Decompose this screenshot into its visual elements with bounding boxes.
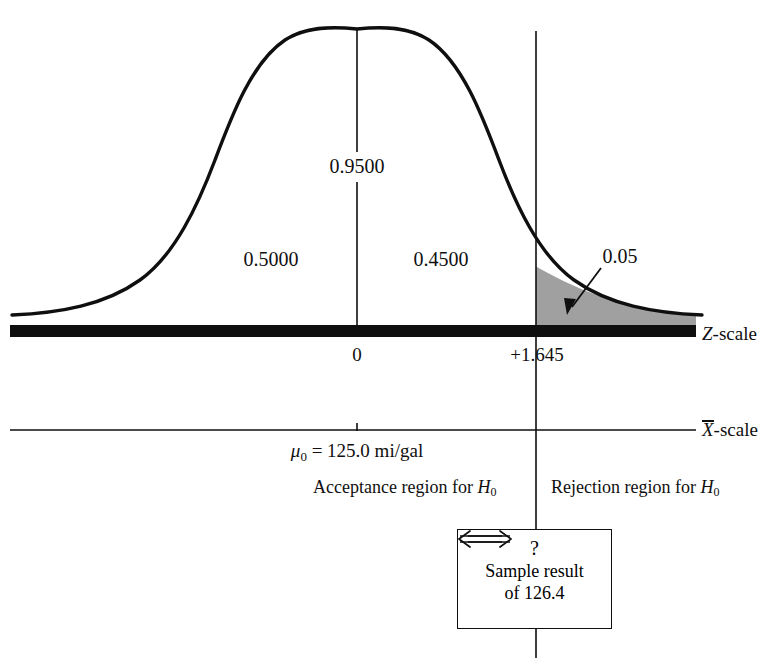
acceptance-region-label: Acceptance region for H0 xyxy=(313,478,496,498)
rejection-tail-shaded-area xyxy=(536,267,696,327)
sample-direction-arrows: ? xyxy=(458,536,611,560)
x-bar-scale-axis-label: X-scale xyxy=(702,419,758,439)
x-bar-symbol: X xyxy=(702,419,714,439)
x-bar-scale-suffix: -scale xyxy=(714,419,758,440)
acceptance-hypothesis-symbol: H xyxy=(477,477,490,497)
z-scale-axis-label: Z-scale xyxy=(702,324,757,343)
sample-result-line-1: Sample result xyxy=(485,561,583,582)
rejection-hypothesis-symbol: H xyxy=(700,477,713,497)
unknown-direction-question-mark: ? xyxy=(527,538,542,558)
confidence-area-label: 0.9500 xyxy=(330,156,385,176)
left-half-area-label: 0.5000 xyxy=(244,249,299,269)
null-hypothesis-mean-label: μ0 = 125.0 mi/gal xyxy=(291,441,423,463)
acceptance-hypothesis-subscript: 0 xyxy=(490,485,496,499)
normal-curve-figure: 0.9500 0.5000 0.4500 0.05 0 +1.645 Z-sca… xyxy=(0,0,781,669)
mu-symbol: μ xyxy=(291,440,301,461)
right-half-area-label: 0.4500 xyxy=(414,249,469,269)
z-scale-symbol: Z xyxy=(702,323,713,344)
figure-canvas xyxy=(0,0,781,669)
right-double-arrow-icon xyxy=(458,530,512,548)
alpha-tail-area-label: 0.05 xyxy=(603,246,638,266)
z-tick-label-zero: 0 xyxy=(352,345,362,364)
z-scale-axis-bar xyxy=(10,325,696,337)
z-tick-label-critical: +1.645 xyxy=(510,345,563,364)
rejection-region-text: Rejection region for xyxy=(551,477,700,497)
sample-result-line-2: of 126.4 xyxy=(505,583,565,604)
rejection-region-label: Rejection region for H0 xyxy=(551,478,719,498)
mu-value-text: = 125.0 mi/gal xyxy=(307,440,423,461)
sample-result-callout-box: ? Sample result of 126.4 xyxy=(457,529,612,629)
z-scale-suffix: -scale xyxy=(713,323,757,344)
acceptance-region-text: Acceptance region for xyxy=(313,477,477,497)
rejection-hypothesis-subscript: 0 xyxy=(713,485,719,499)
